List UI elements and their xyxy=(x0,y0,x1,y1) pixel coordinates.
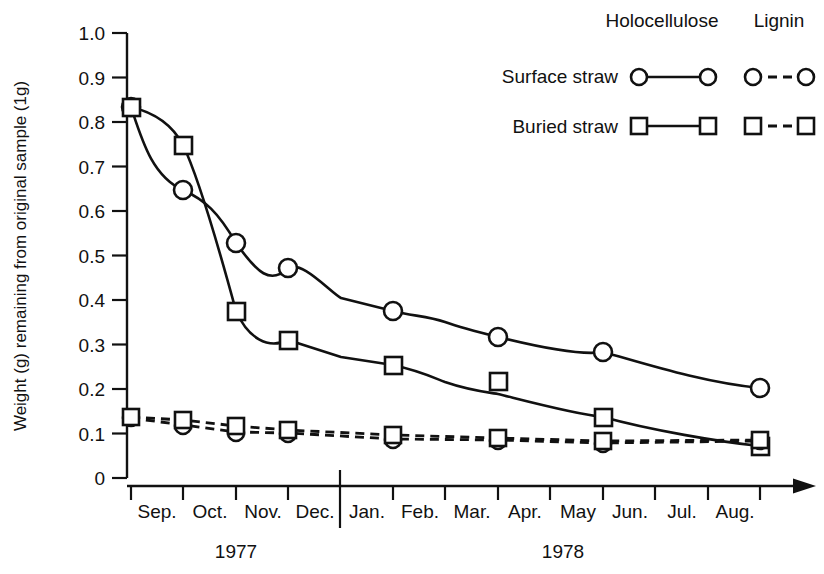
y-tick-label: 0.6 xyxy=(79,201,105,222)
series-surface-lignin xyxy=(123,410,768,452)
data-point-marker xyxy=(384,302,402,320)
x-axis-year-labels: 1977 1978 xyxy=(215,541,584,562)
line-surface-holocellulose xyxy=(131,107,760,388)
data-point-marker xyxy=(279,259,297,277)
y-tick-label: 0.8 xyxy=(79,112,105,133)
legend-label-buried-straw: Buried straw xyxy=(512,116,618,137)
legend-marker-square xyxy=(745,118,761,134)
x-tick-label-month: Aug. xyxy=(715,501,754,522)
x-tick-label-month: Jul. xyxy=(667,501,697,522)
x-tick-label-month: Mar. xyxy=(454,501,491,522)
y-axis-tick-labels: 1.0 0.9 0.8 0.7 0.6 0.5 0.4 0.3 0.2 0.1 … xyxy=(79,23,106,489)
data-point-marker xyxy=(228,418,244,434)
legend-marker-square xyxy=(631,118,647,134)
data-point-marker xyxy=(123,99,140,116)
data-point-marker xyxy=(594,343,612,361)
x-axis-month-labels: Sep. Oct. Nov. Dec. Jan. Feb. Mar. Apr. … xyxy=(137,501,754,522)
data-point-marker xyxy=(385,357,402,374)
y-tick-label: 0.4 xyxy=(79,290,106,311)
line-buried-lignin xyxy=(131,417,760,441)
line-buried-holocellulose xyxy=(131,107,760,446)
data-point-marker xyxy=(489,328,507,346)
y-tick-label: 0.9 xyxy=(79,68,105,89)
data-point-marker xyxy=(228,303,245,320)
data-point-marker xyxy=(385,427,401,443)
y-tick-label: 0.5 xyxy=(79,246,105,267)
y-tick-label: 0.7 xyxy=(79,157,105,178)
legend-header-lignin: Lignin xyxy=(754,10,805,31)
y-tick-label: 0.2 xyxy=(79,379,105,400)
x-tick-label-month: Nov. xyxy=(244,501,282,522)
chart-figure: 1.0 0.9 0.8 0.7 0.6 0.5 0.4 0.3 0.2 0.1 … xyxy=(0,0,824,574)
y-tick-label: 0.3 xyxy=(79,335,105,356)
legend-marker-circle xyxy=(798,69,814,85)
data-point-marker xyxy=(174,181,192,199)
x-axis: Sep. Oct. Nov. Dec. Jan. Feb. Mar. Apr. … xyxy=(127,470,816,562)
chart-legend: Holocellulose Lignin Surface straw Burie… xyxy=(502,10,814,137)
legend-row-buried-straw: Buried straw xyxy=(512,116,814,137)
legend-row-surface-straw: Surface straw xyxy=(502,66,814,87)
x-tick-label-month: Dec. xyxy=(295,501,334,522)
data-point-marker xyxy=(175,137,192,154)
legend-marker-circle xyxy=(631,69,647,85)
y-tick-label: 0.1 xyxy=(79,424,105,445)
y-tick-label: 1.0 xyxy=(79,23,105,44)
x-axis-ticks xyxy=(131,486,760,500)
x-tick-label-month: Oct. xyxy=(193,501,228,522)
data-point-marker xyxy=(490,373,507,390)
y-tick-label: 0 xyxy=(94,468,105,489)
x-axis-arrow-icon xyxy=(793,479,816,494)
data-point-marker xyxy=(595,409,612,426)
series-buried-holocellulose xyxy=(123,99,769,455)
data-point-marker xyxy=(175,412,191,428)
legend-label-surface-straw: Surface straw xyxy=(502,66,618,87)
year-label-1977: 1977 xyxy=(215,541,257,562)
y-axis-title: Weight (g) remaining from original sampl… xyxy=(11,81,30,431)
x-tick-label-month: Apr. xyxy=(508,501,542,522)
year-label-1978: 1978 xyxy=(542,541,584,562)
x-tick-label-month: Sep. xyxy=(137,501,176,522)
legend-marker-square xyxy=(798,118,814,134)
data-point-marker xyxy=(752,432,768,448)
x-tick-label-month: Jun. xyxy=(612,501,648,522)
data-point-marker xyxy=(123,409,139,425)
x-tick-label-month: Feb. xyxy=(401,501,439,522)
x-tick-label-month: May xyxy=(560,501,596,522)
data-point-marker xyxy=(751,379,769,397)
y-axis: 1.0 0.9 0.8 0.7 0.6 0.5 0.4 0.3 0.2 0.1 … xyxy=(11,23,127,489)
x-tick-label-month: Jan. xyxy=(349,501,385,522)
legend-marker-square xyxy=(700,118,716,134)
legend-marker-circle xyxy=(700,69,716,85)
legend-header-holocellulose: Holocellulose xyxy=(605,10,718,31)
data-point-marker xyxy=(280,332,297,349)
legend-marker-circle xyxy=(745,69,761,85)
data-point-marker xyxy=(595,433,611,449)
data-point-marker xyxy=(227,234,245,252)
weight-loss-line-chart: 1.0 0.9 0.8 0.7 0.6 0.5 0.4 0.3 0.2 0.1 … xyxy=(0,0,824,574)
data-point-marker xyxy=(280,422,296,438)
data-point-marker xyxy=(490,430,506,446)
